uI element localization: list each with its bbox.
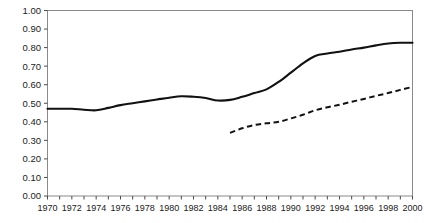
line-chart: 0.000.100.200.300.400.500.600.700.800.90… <box>0 0 431 223</box>
x-tick-label: 2000 <box>402 203 422 213</box>
x-tick-label: 1986 <box>232 203 252 213</box>
y-tick-label: 0.50 <box>23 98 42 109</box>
x-tick-label: 1980 <box>159 203 179 213</box>
y-tick-label: 0.00 <box>23 190 42 201</box>
y-tick-label: 0.60 <box>23 79 42 90</box>
x-tick-label: 1970 <box>37 203 57 213</box>
x-tick-label: 1978 <box>135 203 155 213</box>
x-tick-label: 1994 <box>329 203 349 213</box>
x-tick-label: 1992 <box>305 203 325 213</box>
x-tick-label: 1982 <box>183 203 203 213</box>
y-tick-label: 0.90 <box>23 23 42 34</box>
y-tick-label: 0.40 <box>23 116 42 127</box>
y-tick-label: 0.30 <box>23 135 42 146</box>
x-tick-label: 1984 <box>208 203 228 213</box>
x-tick-label: 1974 <box>86 203 106 213</box>
y-tick-label: 0.80 <box>23 42 42 53</box>
y-tick-label: 0.70 <box>23 61 42 72</box>
x-tick-label: 1988 <box>256 203 276 213</box>
y-tick-label: 1.00 <box>23 5 42 16</box>
plot-frame <box>48 11 413 197</box>
x-tick-label: 1996 <box>354 203 374 213</box>
plot-area-border <box>48 11 413 197</box>
x-tick-label: 1976 <box>110 203 130 213</box>
x-tick-label: 1990 <box>281 203 301 213</box>
x-tick-label: 1972 <box>62 203 82 213</box>
y-tick-label: 0.20 <box>23 153 42 164</box>
y-axis-tick-labels: 0.000.100.200.300.400.500.600.700.800.90… <box>23 5 42 202</box>
y-tick-label: 0.10 <box>23 172 42 183</box>
chart-canvas: 0.000.100.200.300.400.500.600.700.800.90… <box>0 0 431 223</box>
x-tick-label: 1998 <box>378 203 398 213</box>
